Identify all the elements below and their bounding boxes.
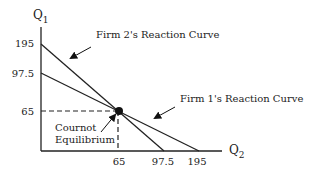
x-tick-97-5: 97.5 (152, 156, 174, 167)
firm2-label: Firm 2's Reaction Curve (96, 29, 219, 40)
y-tick-97-5: 97.5 (12, 68, 34, 79)
firm1-label: Firm 1's Reaction Curve (180, 93, 303, 104)
x-tick-65: 65 (113, 156, 126, 167)
y-axis-label: Q1 (33, 8, 49, 25)
cournot-label-line1: Cournot (55, 122, 96, 133)
x-tick-195: 195 (187, 156, 206, 167)
cournot-arrow-icon (101, 115, 115, 132)
cournot-label-line2: Equilibrium (55, 134, 116, 145)
equilibrium-point (115, 107, 123, 115)
x-axis-label: Q2 (229, 143, 245, 160)
firm2-arrow-icon (71, 47, 91, 58)
firm1-arrow-icon (155, 107, 175, 118)
y-tick-195: 195 (15, 38, 34, 49)
y-tick-65: 65 (21, 106, 34, 117)
cournot-diagram: Q1 Q2 195 97.5 65 65 97.5 195 Firm 2's R… (0, 0, 315, 173)
